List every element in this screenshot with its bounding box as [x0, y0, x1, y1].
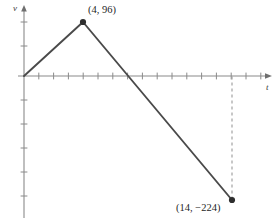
- y-axis-label: v: [13, 4, 17, 13]
- velocity-curve: [24, 22, 232, 200]
- y-axis-arrow-icon: [21, 5, 27, 12]
- endpoint-point-marker: [229, 197, 235, 203]
- x-axis-arrow-icon: [265, 73, 272, 79]
- velocity-time-graph-figure: v t (4, 96) (14, −224): [0, 0, 279, 222]
- plot-canvas: [0, 0, 279, 222]
- endpoint-point-label: (14, −224): [176, 203, 220, 214]
- apex-point-marker: [80, 19, 86, 25]
- apex-point-label: (4, 96): [88, 5, 116, 16]
- x-axis-label: t: [266, 83, 269, 92]
